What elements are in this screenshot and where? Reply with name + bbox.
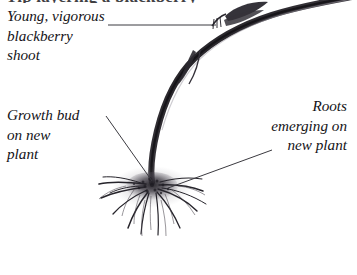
tip-layering-figure: Tip layering a blackberry [0, 0, 357, 275]
label-young-vigorous-shoot: Young, vigorous blackberry shoot [7, 6, 105, 65]
label-roots-emerging-on-new-plant: Roots emerging on new plant [271, 96, 347, 155]
root-crown-group [99, 166, 206, 236]
label-growth-bud-on-new-plant: Growth bud on new plant [7, 105, 79, 164]
lower-leaf-blade [178, 50, 196, 85]
